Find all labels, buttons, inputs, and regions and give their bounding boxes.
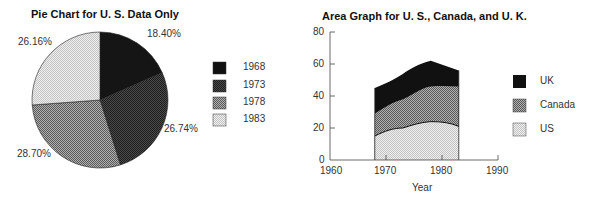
pie-label-1968: 18.40% [147, 28, 181, 39]
area-chart [375, 61, 459, 160]
legend-label-1978: 1978 [243, 96, 265, 107]
y-tick-0: 0 [319, 154, 325, 165]
legend-label-1968: 1968 [243, 61, 265, 72]
legend-swatch-us [513, 123, 526, 136]
legend-swatch-uk [513, 75, 526, 88]
y-tick-60: 60 [313, 58, 324, 69]
legend-label-us: US [540, 123, 554, 134]
legend-swatch-1968 [213, 62, 226, 74]
y-tick-80: 80 [313, 26, 324, 37]
legend-label-1983: 1983 [243, 113, 265, 124]
legend-label-canada: Canada [540, 99, 575, 110]
legend-swatch-1973 [213, 80, 226, 92]
pie-label-1978: 28.70% [17, 148, 51, 159]
pie-label-1983: 26.16% [18, 36, 52, 47]
pie-label-1973: 26.74% [164, 123, 198, 134]
pie-chart [32, 32, 168, 168]
x-tick-1990: 1990 [486, 165, 508, 176]
legend-swatch-1983 [213, 114, 226, 126]
x-tick-1980: 1980 [430, 165, 452, 176]
y-tick-20: 20 [313, 122, 324, 133]
pie-title: Pie Chart for U. S. Data Only [31, 8, 179, 20]
legend-label-uk: UK [540, 75, 554, 86]
y-tick-40: 40 [313, 90, 324, 101]
x-tick-1970: 1970 [374, 165, 396, 176]
legend-label-1973: 1973 [243, 79, 265, 90]
legend-swatch-canada [513, 99, 526, 112]
area-legend [513, 75, 526, 136]
x-tick-1960: 1960 [320, 165, 342, 176]
x-axis-label: Year [412, 182, 432, 193]
legend-swatch-1978 [213, 97, 226, 109]
area-title: Area Graph for U. S., Canada, and U. K. [322, 10, 527, 22]
pie-legend [213, 62, 226, 126]
